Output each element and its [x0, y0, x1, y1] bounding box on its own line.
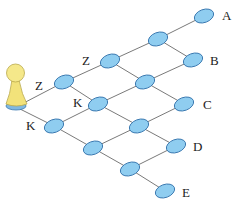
label-b: B	[210, 54, 219, 67]
label-k-left: K	[26, 119, 35, 132]
node-n0	[192, 6, 215, 25]
node-n4	[133, 72, 156, 91]
node-n8	[127, 116, 150, 135]
node-n9	[164, 136, 187, 155]
pawn-body	[6, 80, 27, 106]
pawn-head	[7, 64, 25, 82]
node-n1	[146, 29, 169, 48]
node-n7	[86, 94, 109, 113]
node-n12	[118, 159, 141, 178]
node-n6	[52, 72, 75, 91]
label-k-center: K	[73, 96, 82, 109]
nodes	[42, 6, 215, 200]
pawn-icon	[6, 64, 27, 110]
node-n11	[81, 138, 104, 157]
lattice-diagram	[0, 0, 237, 207]
node-n13	[153, 181, 176, 200]
node-n5	[172, 94, 195, 113]
node-n2	[181, 50, 204, 69]
label-c: C	[203, 98, 212, 111]
label-z-left: Z	[35, 79, 43, 92]
label-z-upper: Z	[82, 54, 90, 67]
label-d: D	[193, 140, 202, 153]
node-n10	[42, 116, 65, 135]
label-e: E	[182, 186, 190, 199]
node-n3	[98, 51, 121, 70]
label-a: A	[222, 9, 231, 22]
